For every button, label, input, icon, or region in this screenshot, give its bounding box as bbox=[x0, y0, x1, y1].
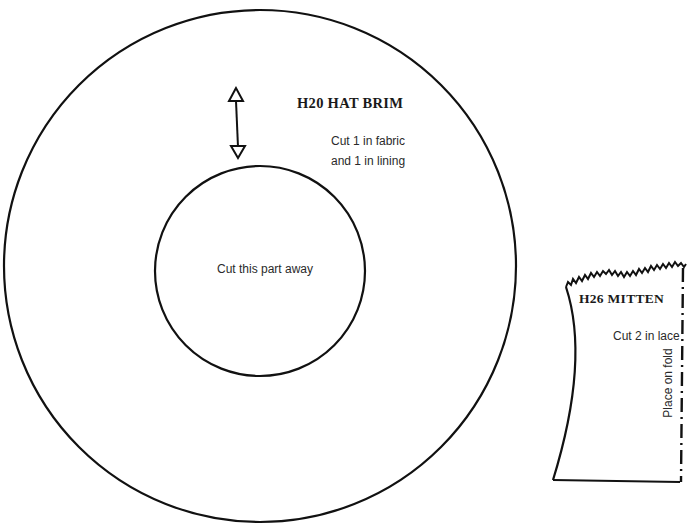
lace-edge bbox=[566, 262, 686, 287]
hat-brim-instruction-line1: Cut 1 in fabric bbox=[331, 134, 405, 148]
fold-line bbox=[681, 268, 683, 482]
hat-brim-instruction-line2: and 1 in lining bbox=[331, 154, 405, 168]
hat-brim-title: H20 HAT BRIM bbox=[297, 95, 403, 112]
pattern-drawing bbox=[0, 0, 699, 527]
grainline-arrow-icon bbox=[229, 88, 245, 158]
mitten-fold-label: Place on fold bbox=[661, 343, 675, 423]
hat-brim-center-label: Cut this part away bbox=[217, 262, 313, 276]
mitten-instruction: Cut 2 in lace bbox=[613, 329, 680, 343]
mitten-title: H26 MITTEN bbox=[579, 291, 664, 307]
pattern-sheet: H20 HAT BRIM Cut 1 in fabric and 1 in li… bbox=[0, 0, 699, 527]
